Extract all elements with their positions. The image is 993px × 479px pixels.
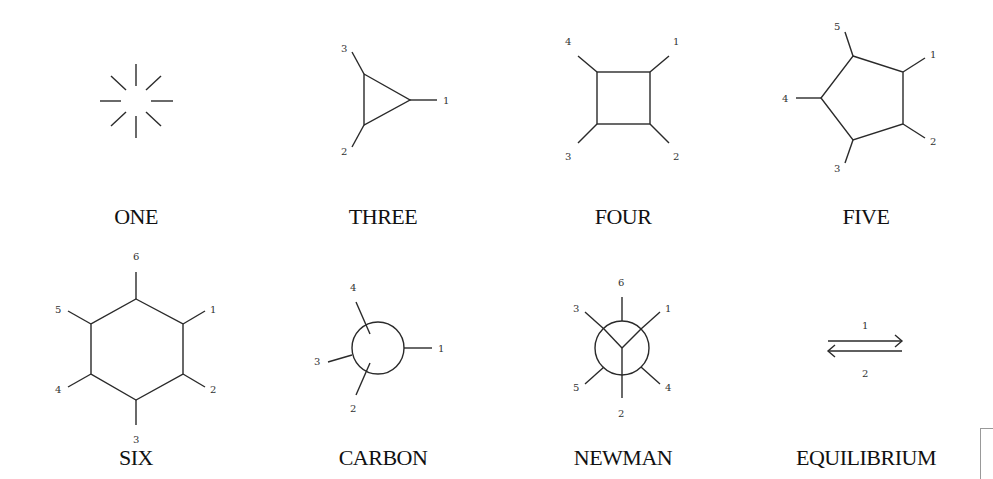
label-6: 6 <box>618 277 624 288</box>
title-one: ONE <box>114 204 158 230</box>
label-1: 1 <box>930 49 936 60</box>
figure-six: 1 2 3 4 5 6 <box>55 251 216 445</box>
label-5: 5 <box>573 382 579 393</box>
label-4: 4 <box>565 36 571 47</box>
label-5: 5 <box>834 21 840 32</box>
label-4: 4 <box>55 384 61 395</box>
label-4: 4 <box>782 93 788 104</box>
title-five: FIVE <box>843 204 890 230</box>
title-carbon: CARBON <box>339 445 428 471</box>
label-1: 1 <box>673 36 679 47</box>
label-2: 2 <box>618 408 624 419</box>
title-three: THREE <box>349 204 417 230</box>
label-1: 1 <box>665 303 671 314</box>
partial-frame-edge <box>980 428 993 479</box>
figure-five: 1 2 3 4 5 <box>782 21 936 174</box>
label-3: 3 <box>314 356 320 367</box>
label-6: 6 <box>133 251 139 262</box>
title-newman: NEWMAN <box>574 445 672 471</box>
label-3: 3 <box>341 43 347 54</box>
label-3: 3 <box>834 163 840 174</box>
label-2: 2 <box>210 384 216 395</box>
label-1: 1 <box>862 320 868 331</box>
label-3: 3 <box>573 303 579 314</box>
figure-three: 1 2 3 <box>341 43 449 157</box>
figure-one <box>100 64 173 138</box>
label-2: 2 <box>673 151 679 162</box>
title-equilibrium: EQUILIBRIUM <box>796 445 936 471</box>
title-six: SIX <box>119 445 153 471</box>
label-2: 2 <box>341 146 347 157</box>
label-3: 3 <box>565 151 571 162</box>
label-1: 1 <box>210 304 216 315</box>
label-4: 4 <box>665 382 671 393</box>
figure-equilibrium: 1 2 <box>828 320 902 379</box>
label-1: 1 <box>438 343 444 354</box>
label-5: 5 <box>55 304 61 315</box>
figure-carbon: 1 2 3 4 <box>314 282 444 414</box>
title-four: FOUR <box>595 204 652 230</box>
label-2: 2 <box>862 368 868 379</box>
label-3: 3 <box>133 434 139 445</box>
figure-newman: 1 2 3 4 5 6 <box>573 277 671 419</box>
label-2: 2 <box>930 136 936 147</box>
label-2: 2 <box>350 403 356 414</box>
label-4: 4 <box>350 282 356 293</box>
figure-four: 1 2 3 4 <box>565 36 679 162</box>
label-1: 1 <box>443 95 449 106</box>
